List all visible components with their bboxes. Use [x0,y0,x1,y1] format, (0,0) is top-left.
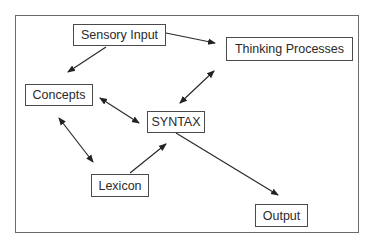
arrow-concepts-lexicon [59,118,93,162]
node-output: Output [255,204,308,227]
arrow-lexicon-to-syntax [130,144,166,173]
arrow-thinking-syntax [180,71,214,103]
node-sensory-input: Sensory Input [73,24,166,46]
node-syntax: SYNTAX [147,111,205,133]
arrow-syntax-to-output [176,133,278,195]
arrow-concepts-syntax [100,98,139,123]
arrow-sensory-to-thinking [166,33,215,43]
arrow-sensory-to-concepts [68,47,106,72]
node-lexicon: Lexicon [91,174,149,197]
node-thinking-processes: Thinking Processes [226,37,353,61]
node-concepts: Concepts [25,84,93,106]
